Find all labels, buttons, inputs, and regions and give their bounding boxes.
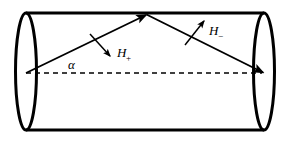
h-plus-subscript: +: [126, 53, 131, 63]
cylinder-body: [16, 13, 275, 130]
alpha-angle-label: α: [68, 57, 76, 72]
figure-container: α H + H −: [0, 0, 286, 141]
cylinder-ray-diagram: α H + H −: [0, 0, 286, 141]
cylinder-surface-fill: [16, 13, 275, 130]
h-minus-subscript: −: [218, 31, 223, 41]
